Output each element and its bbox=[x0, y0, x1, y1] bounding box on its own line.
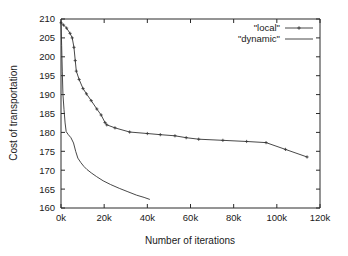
y-tick-label: 160 bbox=[39, 202, 55, 213]
y-tick-label: 170 bbox=[39, 165, 55, 176]
y-tick-label: 165 bbox=[39, 184, 55, 195]
x-axis-ticks: 0k20k40k60k80k100k120k bbox=[56, 19, 331, 223]
x-tick-label: 120k bbox=[310, 212, 331, 223]
y-tick-label: 180 bbox=[39, 127, 55, 138]
chart-legend: "local""dynamic" bbox=[238, 22, 313, 44]
x-tick-label: 60k bbox=[183, 212, 199, 223]
y-tick-label: 210 bbox=[39, 13, 55, 24]
y-tick-label: 195 bbox=[39, 70, 55, 81]
y-tick-label: 190 bbox=[39, 89, 55, 100]
chart-figure: 160165170175180185190195200205210 0k20k4… bbox=[0, 0, 348, 256]
y-tick-label: 175 bbox=[39, 146, 55, 157]
x-axis-title: Number of iterations bbox=[145, 235, 235, 246]
y-tick-label: 200 bbox=[39, 51, 55, 62]
x-tick-label: 40k bbox=[140, 212, 156, 223]
legend-label-2: "dynamic" bbox=[238, 33, 280, 44]
x-tick-label: 0k bbox=[56, 212, 66, 223]
series-group bbox=[59, 21, 308, 199]
y-tick-label: 185 bbox=[39, 108, 55, 119]
legend-label-1: "local" bbox=[254, 22, 280, 33]
chart-canvas: 160165170175180185190195200205210 0k20k4… bbox=[0, 0, 348, 256]
y-axis-title: Cost of transportation bbox=[8, 65, 19, 161]
x-tick-label: 20k bbox=[97, 212, 113, 223]
x-tick-label: 100k bbox=[267, 212, 288, 223]
x-tick-label: 80k bbox=[226, 212, 242, 223]
y-tick-label: 205 bbox=[39, 32, 55, 43]
